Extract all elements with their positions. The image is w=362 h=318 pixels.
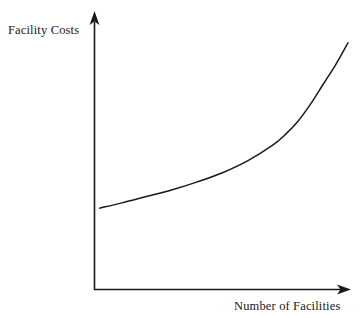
chart-container: Facility Costs Number of Facilities — [0, 0, 362, 318]
y-axis-label: Facility Costs — [8, 24, 79, 37]
chart-plot-area — [0, 0, 362, 318]
x-axis-label: Number of Facilities — [234, 300, 340, 313]
cost-curve-line — [100, 43, 348, 208]
